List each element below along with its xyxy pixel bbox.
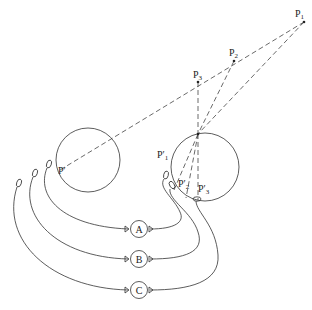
wire-right-c (150, 201, 218, 290)
node-b: B (125, 251, 153, 268)
left-electrode-c (15, 178, 22, 187)
node-a: A (125, 221, 153, 238)
projection-lines (60, 22, 304, 200)
label-p2: P2 (229, 47, 239, 60)
node-label: C (136, 285, 143, 296)
point-p2 (233, 60, 236, 63)
label-p-prime: P′ (58, 165, 66, 176)
point-p1 (303, 21, 306, 24)
left-electrode-b (31, 168, 38, 177)
label-p1-prime: P′1 (157, 149, 169, 162)
left-electrode-a (45, 159, 52, 168)
label-p3-prime: P′3 (198, 183, 210, 196)
wire-left-b (30, 177, 128, 259)
line-p1-to-p-prime (60, 22, 304, 170)
label-p1: P1 (295, 8, 305, 21)
right-electrode-a (163, 171, 170, 180)
label-p3: P3 (193, 69, 203, 82)
label-p2-prime: P′2 (178, 178, 190, 191)
node-label: A (135, 224, 143, 235)
line-p2-to-focus (198, 61, 234, 134)
left-sphere (56, 128, 120, 192)
node-label: B (136, 254, 143, 265)
focus-point (197, 133, 200, 136)
node-c: C (125, 282, 153, 299)
wire-right-b (150, 189, 199, 259)
line-p1-to-focus (198, 22, 304, 134)
electrode-projection-diagram: P1 P2 P3 P′ P′1 P′2 P′3 A B C (0, 0, 312, 310)
wire-right-a (150, 179, 181, 229)
